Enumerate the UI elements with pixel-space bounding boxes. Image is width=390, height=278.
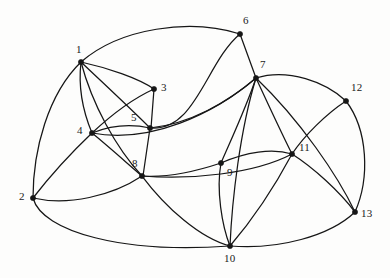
vertex-label-11: 11	[299, 142, 310, 153]
edge-1-3	[81, 62, 154, 89]
vertex-label-5: 5	[131, 112, 137, 123]
edge-9-11	[221, 151, 292, 163]
vertex-label-4: 4	[77, 125, 83, 136]
edge-12-13	[346, 101, 365, 212]
vertex-node-11[interactable]	[289, 151, 294, 156]
vertex-label-3: 3	[161, 82, 167, 93]
edge-8-11	[142, 154, 292, 177]
edge-2-8	[33, 176, 142, 201]
vertex-node-13[interactable]	[352, 209, 357, 214]
vertex-label-12: 12	[351, 82, 362, 93]
edge-2-10	[33, 198, 230, 248]
vertex-label-6: 6	[243, 15, 249, 26]
edge-11-13	[292, 154, 355, 212]
edge-10-11	[230, 154, 292, 246]
vertex-label-7: 7	[260, 59, 266, 70]
vertex-node-1[interactable]	[78, 59, 83, 64]
vertex-label-2: 2	[19, 191, 25, 202]
edge-1-6	[81, 27, 240, 62]
vertex-node-4[interactable]	[89, 130, 94, 135]
vertex-node-7[interactable]	[253, 75, 258, 80]
edge-4-5	[92, 126, 150, 133]
graph-canvas	[0, 0, 390, 278]
vertex-node-10[interactable]	[227, 243, 232, 248]
edge-7-11	[256, 78, 292, 154]
edge-1-2	[33, 62, 81, 198]
edge-2-4	[33, 133, 92, 198]
edge-7-12	[256, 75, 346, 101]
edge-6-7	[240, 34, 256, 78]
vertex-label-1: 1	[76, 44, 82, 55]
edge-3-5	[151, 89, 154, 128]
vertex-node-3[interactable]	[151, 86, 156, 91]
vertex-node-9[interactable]	[218, 160, 223, 165]
edge-1-4	[80, 62, 92, 133]
vertex-label-10: 10	[224, 253, 235, 264]
edge-5-8	[143, 128, 150, 176]
vertex-node-8[interactable]	[139, 173, 144, 178]
vertex-label-8: 8	[132, 158, 138, 169]
edge-7-10	[230, 78, 256, 246]
edge-10-13	[230, 212, 355, 247]
edge-7-9	[221, 78, 256, 163]
vertex-node-5[interactable]	[147, 125, 152, 130]
vertex-label-13: 13	[361, 208, 372, 219]
vertex-node-2[interactable]	[30, 195, 35, 200]
edge-8-9	[142, 163, 221, 176]
vertex-node-6[interactable]	[237, 31, 242, 36]
vertex-node-12[interactable]	[343, 98, 348, 103]
vertices-layer	[30, 31, 357, 248]
graph-diagram: 12345678910111213	[0, 0, 390, 278]
vertex-label-9: 9	[227, 167, 233, 178]
edge-4-8	[92, 133, 142, 176]
edge-8-10	[142, 176, 230, 246]
